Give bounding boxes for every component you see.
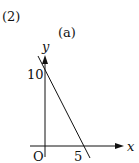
graph <box>0 0 139 163</box>
x-intercept-label: 5 <box>74 150 82 163</box>
x-axis-arrow-icon <box>115 143 124 149</box>
graph-line <box>38 56 90 158</box>
y-axis-label: y <box>42 40 49 53</box>
y-axis-arrow-icon <box>42 55 48 64</box>
y-intercept-label: 10 <box>27 68 44 81</box>
origin-label: O <box>33 150 44 163</box>
x-axis-label: x <box>127 140 134 153</box>
